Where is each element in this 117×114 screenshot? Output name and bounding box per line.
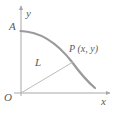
point-a-label: A <box>9 21 16 32</box>
origin-label: O <box>4 92 12 103</box>
y-axis-label: y <box>26 8 31 19</box>
coordinate-diagram-svg <box>0 0 117 114</box>
point-p-label: P (x, y) <box>69 44 98 54</box>
figure-container: y x A O L P (x, y) <box>0 0 117 114</box>
x-axis-label: x <box>101 96 106 107</box>
segment-length-label: L <box>35 57 41 68</box>
segment-L-line <box>21 62 73 93</box>
curve-path <box>21 31 96 88</box>
